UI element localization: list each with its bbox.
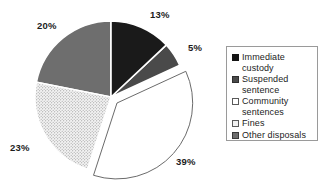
legend-item-label: Suspended sentence (242, 74, 313, 95)
legend-swatch-icon (232, 54, 239, 61)
legend-swatch-icon (232, 76, 239, 83)
legend-item-label: Immediate custody (242, 52, 313, 73)
legend-swatch-icon (232, 120, 239, 127)
pie-label-other-disposals: 20% (37, 21, 57, 31)
legend-item-immediate-custody[interactable]: Immediate custody (232, 52, 313, 73)
legend-swatch-icon (232, 132, 239, 139)
legend-item-fines[interactable]: Fines (232, 118, 313, 129)
pie-chart-figure: 13% 5% 39% 23% 20% Immediate custody Sus… (0, 0, 332, 188)
legend-item-label: Community sentences (242, 96, 313, 117)
pie-label-immediate-custody: 13% (150, 10, 170, 20)
legend-item-community-sentences[interactable]: Community sentences (232, 96, 313, 117)
legend-item-label: Other disposals (242, 130, 306, 141)
pie-label-fines: 23% (10, 143, 30, 153)
pie-label-community-sentences: 39% (176, 157, 196, 167)
pie-plot-area: 13% 5% 39% 23% 20% (0, 0, 212, 188)
legend-item-label: Fines (242, 118, 265, 129)
chart-legend: Immediate custody Suspended sentence Com… (226, 46, 318, 141)
legend-swatch-icon (232, 98, 239, 105)
pie-label-suspended-sentence: 5% (188, 43, 202, 53)
legend-item-other-disposals[interactable]: Other disposals (232, 130, 313, 141)
legend-item-suspended-sentence[interactable]: Suspended sentence (232, 74, 313, 95)
